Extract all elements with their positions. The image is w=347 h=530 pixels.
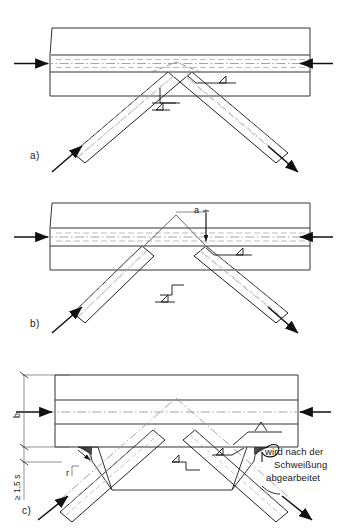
panel-label-b: b) — [30, 318, 40, 329]
weld-symbol-c-v — [233, 422, 282, 445]
force-arrow-diagonal-left-c — [38, 496, 68, 520]
weld-symbol-c-center — [172, 455, 200, 470]
panel-a-geometry — [14, 28, 333, 172]
dimension-min-edge — [20, 447, 62, 500]
dimension-label-a: a — [194, 205, 199, 215]
dimension-label-min-edge: ≥ 1,5 s — [12, 475, 22, 500]
force-arrow-diagonal-left — [52, 146, 82, 172]
note-line-3: abgearbeitet — [266, 472, 320, 485]
panel-label-c: c) — [22, 505, 31, 516]
force-arrow-diagonal-right — [268, 146, 298, 172]
dimension-label-radius: r — [66, 468, 69, 478]
force-arrow-diagonal-left-b — [52, 307, 82, 333]
dimension-b — [20, 372, 70, 450]
note-line-2: Schweißung — [274, 459, 327, 472]
drawing-sheet: a) b) c) a b ≥ 1,5 s r wird nach der Sch… — [0, 0, 347, 530]
panel-b-geometry — [14, 203, 333, 333]
force-arrow-diagonal-right-c — [282, 496, 312, 520]
dimension-a — [176, 209, 209, 243]
weld-symbol-b-center — [155, 285, 184, 302]
weld-symbol-a-right — [188, 76, 236, 83]
note-line-1: wird nach der — [265, 446, 323, 459]
panel-label-a: a) — [30, 150, 40, 161]
dimension-label-b: b — [12, 413, 22, 418]
